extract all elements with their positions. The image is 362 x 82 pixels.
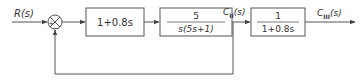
summing-junction: + − bbox=[48, 15, 62, 31]
block-3: 1 1+0.8s bbox=[251, 8, 305, 36]
block-3-numerator: 1 bbox=[275, 11, 281, 21]
block-1-tf: 1+0.8s bbox=[97, 17, 133, 28]
block-3-denominator: 1+0.8s bbox=[262, 24, 295, 34]
input-signal: R(s) bbox=[12, 8, 47, 22]
minus-sign: − bbox=[53, 24, 58, 31]
block-2-numerator: 5 bbox=[193, 11, 199, 21]
block-diagram: R(s) + − 1+0.8s 5 s(5s+1) CII(s) 1 1+0.8… bbox=[0, 0, 362, 82]
c3-label: CIII(s) bbox=[317, 8, 342, 20]
block-2-denominator: s(5s+1) bbox=[178, 24, 213, 34]
block-1: 1+0.8s bbox=[86, 8, 144, 36]
block-2: 5 s(5s+1) bbox=[160, 8, 232, 36]
svg-text:R(s): R(s) bbox=[14, 8, 34, 19]
input-label: R(s) bbox=[14, 8, 34, 19]
